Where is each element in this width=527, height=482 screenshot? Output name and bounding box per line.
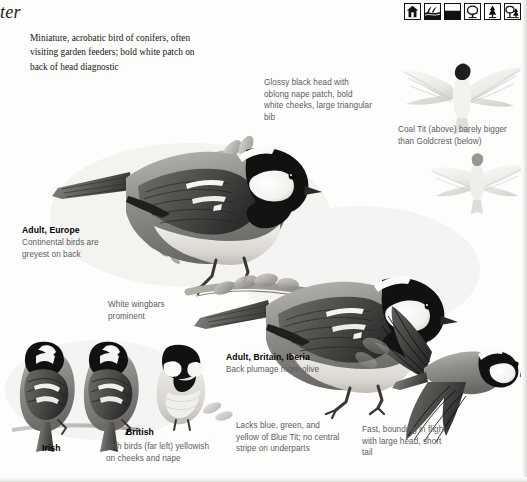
page-edge-right: [521, 0, 527, 482]
plate-label-adult-europe-heading: Adult, Europe: [22, 224, 122, 236]
field-guide-page: ter: [0, 0, 527, 482]
plate-label-adult-britain-iberia: Adult, Britain, Iberia Back plumage more…: [226, 351, 344, 376]
race-label-irish: Irish: [42, 443, 61, 453]
page-edge-bottom: [0, 477, 527, 482]
plate-label-adult-europe: Adult, Europe Continental birds are grey…: [22, 224, 122, 260]
annotation-underparts: Lacks blue, green, and yellow of Blue Ti…: [236, 420, 340, 455]
plate-label-adult-europe-detail: Continental birds are greyest on back: [22, 238, 99, 259]
plate-label-adult-britain-iberia-detail: Back plumage more olive: [226, 365, 319, 374]
race-label-british: British: [126, 427, 154, 437]
annotation-irish-birds: Irish birds (far left) yellowish on chee…: [106, 441, 210, 464]
annotation-flight-action: Fast, bounding in flight, with large hea…: [362, 424, 454, 459]
intro-description: Miniature, acrobatic bird of conifers, o…: [30, 31, 210, 74]
plate-label-adult-britain-iberia-heading: Adult, Britain, Iberia: [226, 351, 344, 363]
annotation-wingbars: White wingbars prominent: [108, 299, 198, 322]
annotation-size-comparison: Coal Tit (above) barely bigger than Gold…: [398, 124, 514, 147]
annotation-head-pattern: Glossy black head with oblong nape patch…: [264, 77, 372, 124]
